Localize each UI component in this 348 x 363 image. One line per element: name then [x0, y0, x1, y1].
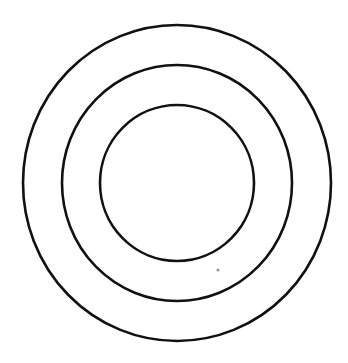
speck — [216, 268, 219, 271]
artifacts-group — [216, 268, 219, 271]
background — [0, 0, 348, 363]
concentric-circles-diagram — [0, 0, 348, 363]
